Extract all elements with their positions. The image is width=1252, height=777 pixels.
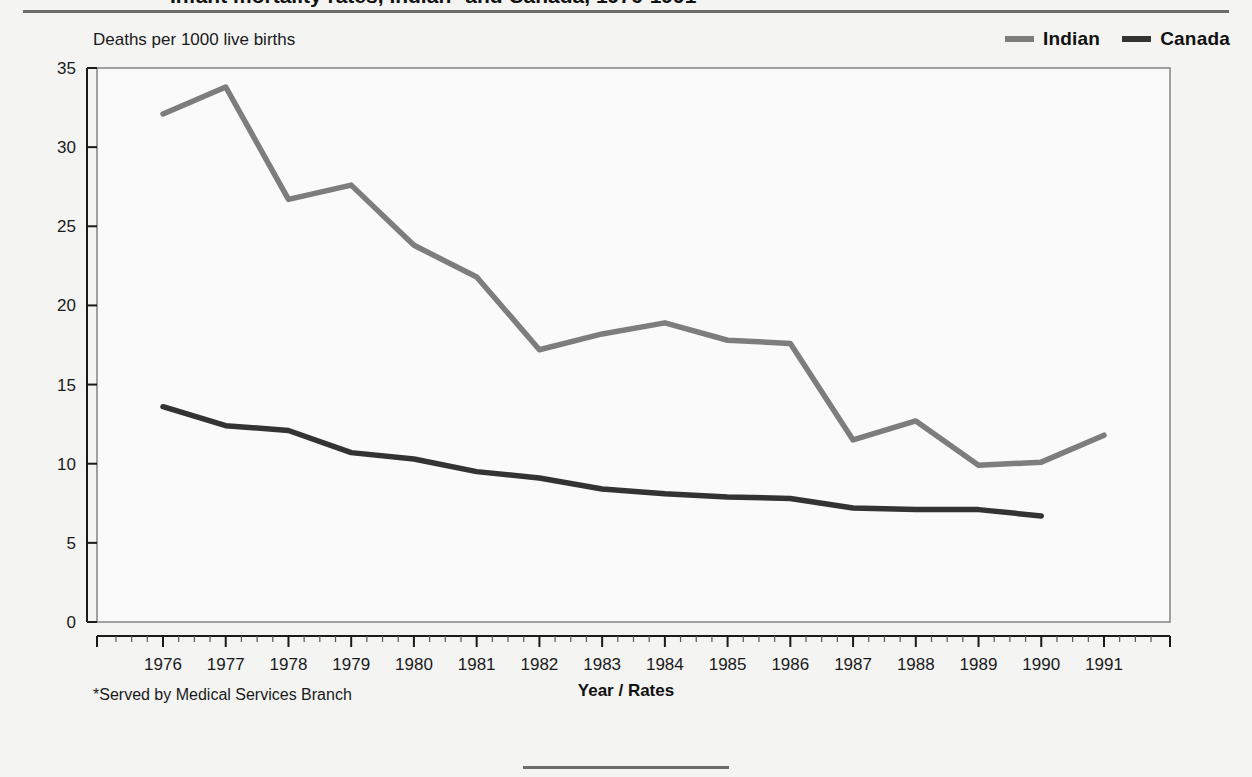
x-tick-label: 1979 xyxy=(332,655,370,674)
x-tick-label: 1980 xyxy=(395,655,433,674)
y-tick-label: 25 xyxy=(57,217,76,236)
x-tick-label: 1983 xyxy=(583,655,621,674)
x-tick-label: 1985 xyxy=(709,655,747,674)
x-axis-ticks xyxy=(97,636,1170,647)
x-tick-label: 1990 xyxy=(1022,655,1060,674)
x-tick-label: 1982 xyxy=(520,655,558,674)
chart-svg: 05101520253035 1976197719781979198019811… xyxy=(0,0,1252,777)
y-tick-label: 30 xyxy=(57,138,76,157)
x-tick-label: 1978 xyxy=(270,655,308,674)
x-tick-label: 1976 xyxy=(144,655,182,674)
x-tick-labels: 1976197719781979198019811982198319841985… xyxy=(144,655,1123,674)
x-tick-label: 1987 xyxy=(834,655,872,674)
y-axis-ticks xyxy=(87,68,97,622)
x-tick-label: 1981 xyxy=(458,655,496,674)
x-axis-title: Year / Rates xyxy=(0,681,1252,701)
y-tick-label: 15 xyxy=(57,376,76,395)
y-tick-label: 0 xyxy=(67,613,76,632)
x-tick-label: 1986 xyxy=(771,655,809,674)
plot-frame xyxy=(97,68,1170,622)
x-tick-label: 1989 xyxy=(960,655,998,674)
plot-area: 05101520253035 1976197719781979198019811… xyxy=(0,0,1252,777)
y-tick-labels: 05101520253035 xyxy=(57,59,76,632)
y-tick-label: 20 xyxy=(57,296,76,315)
y-tick-label: 35 xyxy=(57,59,76,78)
y-tick-label: 10 xyxy=(57,455,76,474)
chart-page: Infant mortality rates, Indian* and Cana… xyxy=(0,0,1252,777)
x-tick-label: 1977 xyxy=(207,655,245,674)
y-tick-label: 5 xyxy=(67,534,76,553)
bottom-divider-rule xyxy=(523,766,729,769)
x-tick-label: 1991 xyxy=(1085,655,1123,674)
x-tick-label: 1988 xyxy=(897,655,935,674)
x-tick-label: 1984 xyxy=(646,655,684,674)
